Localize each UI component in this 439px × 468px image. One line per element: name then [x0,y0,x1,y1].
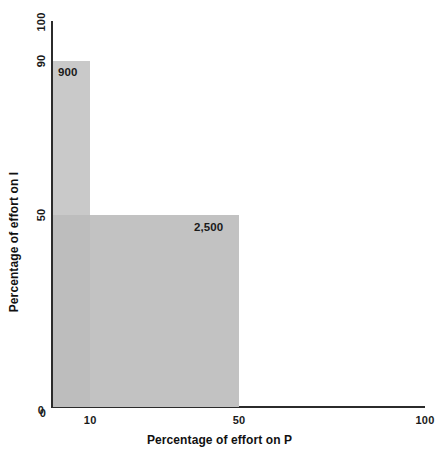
x-tick-10: 10 [84,414,97,426]
data-label-900: 900 [58,66,78,78]
y-axis-title: Percentage of effort on I [7,172,21,313]
y-tick-90: 90 [35,54,47,67]
x-axis-title: Percentage of effort on P [147,433,292,447]
data-label-2500: 2,500 [194,221,223,233]
chart-container: 900 2,500 0 10 50 100 0 50 90 100 Percen… [0,0,439,468]
y-tick-100: 100 [35,13,47,32]
y-tick-50: 50 [35,208,47,221]
x-tick-100: 100 [416,414,435,426]
x-tick-50: 50 [233,414,246,426]
ghost-header-text [46,0,166,9]
data-rect-overlap [53,215,90,408]
y-tick-0: 0 [40,407,46,419]
plot-area: 900 2,500 [53,22,425,407]
